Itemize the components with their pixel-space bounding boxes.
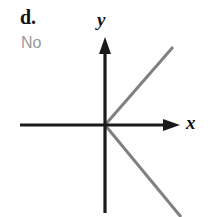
coordinate-plane-svg <box>0 0 215 217</box>
graph-ray-lower <box>105 125 181 217</box>
graph-ray-upper <box>105 47 173 125</box>
graph-figure: d. No y x <box>0 0 215 217</box>
y-axis-arrowhead <box>99 37 111 54</box>
x-axis-label: x <box>186 113 196 133</box>
x-axis-arrowhead <box>163 119 180 131</box>
y-axis-label: y <box>97 10 105 30</box>
